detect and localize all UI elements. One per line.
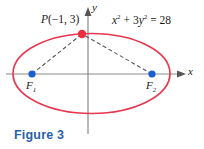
point-p-name: P	[41, 13, 48, 25]
focus-1-subscript: 1	[33, 86, 36, 93]
point-p-marker	[78, 30, 86, 38]
point-p-coords: (−1, 3)	[48, 13, 79, 25]
point-p-label: P(−1, 3)	[41, 14, 79, 26]
figure-caption: Figure 3	[14, 128, 64, 142]
focal-radius-segment-f1-p	[32, 34, 82, 74]
equation-mid: + 3	[121, 14, 139, 26]
ellipse-diagram	[0, 0, 204, 149]
y-axis-label: y	[92, 2, 97, 13]
equation-tail: = 28	[147, 14, 171, 26]
focus-1-marker	[28, 70, 35, 77]
focus-2-marker	[148, 70, 155, 77]
x-axis-arrowhead	[177, 71, 186, 78]
focal-radius-segment-f2-p	[82, 34, 152, 74]
equation-label: x2 + 3y2 = 28	[112, 14, 171, 26]
y-axis-arrowhead	[85, 7, 92, 16]
focus-2-letter: F	[146, 79, 153, 91]
figure-container: P(−1, 3) x2 + 3y2 = 28 x y F1 F2 Figure …	[0, 0, 204, 149]
y-axis	[85, 7, 92, 134]
focus-1-letter: F	[26, 79, 33, 91]
focus-2-subscript: 2	[153, 86, 156, 93]
focus-1-label: F1	[26, 80, 36, 94]
x-axis-label: x	[188, 66, 193, 77]
focus-2-label: F2	[146, 80, 156, 94]
